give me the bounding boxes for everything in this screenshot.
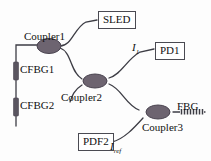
- pd1-box: PD1: [155, 42, 185, 60]
- current-i1-label: I1: [132, 42, 139, 56]
- current-iref-label: Iref: [110, 141, 121, 155]
- current-iref-subscript: ref: [114, 147, 122, 155]
- fiber-coupler1-to-coupler2: [60, 48, 82, 79]
- fbg-label: FBG: [177, 101, 198, 112]
- cfbg1-label: CFBG1: [20, 64, 54, 75]
- coupler3-label: Coupler3: [142, 122, 183, 133]
- fiber-coupler2-to-coupler3: [109, 84, 139, 110]
- fiber-coupler1-to-sled: [60, 20, 97, 46]
- cfbg2-label: CFBG2: [20, 100, 54, 111]
- coupler2-label: Coupler2: [61, 92, 102, 103]
- pdf2-box: PDF2: [78, 133, 114, 151]
- coupler2-node: [83, 74, 107, 88]
- coupler1-label: Coupler1: [24, 31, 65, 42]
- diagram-canvas: Coupler1 Coupler2 Coupler3 CFBG1 CFBG2 F…: [0, 0, 211, 161]
- current-i1-subscript: 1: [136, 48, 140, 56]
- coupler3-node: [146, 105, 170, 119]
- cfbg2-grating-mark: [14, 98, 19, 116]
- cfbg1-grating-mark: [14, 62, 19, 80]
- sled-box: SLED: [98, 11, 136, 29]
- fiber-coupler1-to-cfbg-bus: [16, 45, 39, 126]
